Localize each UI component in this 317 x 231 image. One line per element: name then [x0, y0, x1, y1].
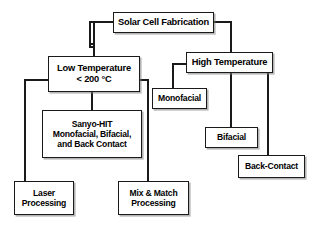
- node-laser-processing[interactable]: Laser Processing: [14, 181, 74, 215]
- node-bifacial[interactable]: Bifacial: [205, 127, 258, 148]
- node-label-mix-match-processing: Mix & Match Processing: [128, 188, 180, 208]
- edge-hightemp-to-monofacial: [173, 64, 186, 88]
- node-label-low-temperature: Low Temperature < 200 °C: [55, 63, 133, 85]
- node-sanyo-hit[interactable]: Sanyo-HIT Monofacial, Bifacial, and Back…: [42, 110, 142, 158]
- node-label-back-contact: Back-Contact: [243, 161, 300, 171]
- node-label-root: Solar Cell Fabrication: [116, 17, 211, 28]
- flowchart-diagram: Solar Cell Fabrication Low Temperature <…: [0, 0, 317, 231]
- node-back-contact[interactable]: Back-Contact: [238, 155, 305, 178]
- node-mix-match-processing[interactable]: Mix & Match Processing: [118, 181, 189, 215]
- node-label-monofacial: Monofacial: [156, 93, 203, 103]
- node-low-temperature[interactable]: Low Temperature < 200 °C: [48, 56, 140, 92]
- edge-root-to-hightemp: [214, 22, 231, 52]
- node-label-laser-processing: Laser Processing: [20, 188, 68, 208]
- node-label-bifacial: Bifacial: [215, 132, 248, 142]
- node-label-high-temperature: High Temperature: [190, 57, 270, 68]
- node-solar-cell-fabrication[interactable]: Solar Cell Fabrication: [113, 12, 214, 33]
- node-monofacial[interactable]: Monofacial: [152, 88, 207, 109]
- node-label-sanyo-hit: Sanyo-HIT Monofacial, Bifacial, and Back…: [51, 119, 133, 149]
- node-high-temperature[interactable]: High Temperature: [186, 52, 273, 73]
